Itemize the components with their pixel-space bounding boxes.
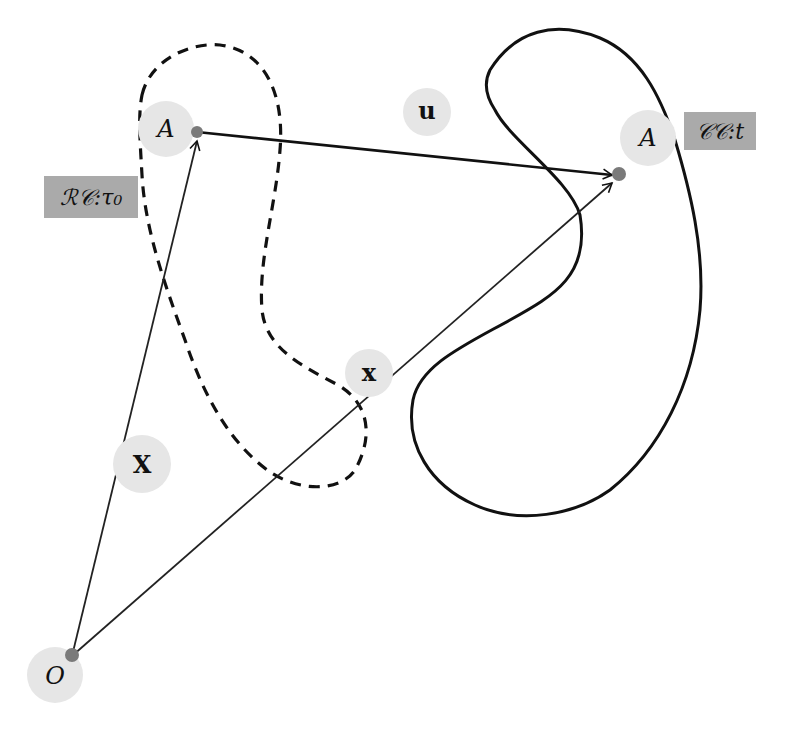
current-point-label: A: [637, 124, 656, 152]
current-configuration-tag: 𝒞𝒞:t: [684, 112, 756, 150]
current-position-vector: [72, 183, 612, 656]
current-point-dot: [612, 167, 626, 181]
reference-point-label: A: [155, 115, 174, 143]
configuration-diagram: A u A x X O ℛ𝒞:τ₀ 𝒞𝒞:t: [0, 0, 790, 730]
reference-position-label: X: [133, 450, 152, 479]
current-point-bubble: A: [620, 110, 676, 166]
origin-dot: [65, 648, 79, 662]
reference-configuration-label: ℛ𝒞:τ₀: [60, 185, 123, 210]
reference-position-bubble: X: [113, 435, 171, 493]
current-position-bubble: x: [345, 349, 393, 397]
reference-point-dot: [191, 126, 203, 138]
reference-point-bubble: A: [138, 101, 194, 157]
reference-position-vector: [72, 141, 197, 656]
current-configuration-label: 𝒞𝒞:t: [696, 119, 744, 144]
current-position-label: x: [362, 358, 377, 387]
current-configuration-outline: [412, 29, 701, 515]
displacement-label: u: [418, 96, 435, 125]
displacement-vector: [197, 132, 612, 175]
origin-label: O: [45, 662, 65, 690]
reference-configuration-tag: ℛ𝒞:τ₀: [44, 176, 138, 218]
displacement-bubble: u: [403, 88, 451, 136]
